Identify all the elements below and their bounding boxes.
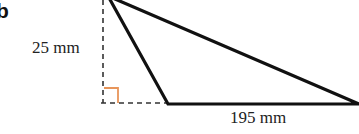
right-angle-marker [104,88,118,103]
base-dimension-label: 195 mm [230,108,286,128]
geometry-figure: b 25 mm 195 mm [0,0,359,134]
height-dimension-label: 25 mm [32,38,80,58]
triangle-diagram-svg [0,0,359,134]
triangle-outline [108,0,359,104]
